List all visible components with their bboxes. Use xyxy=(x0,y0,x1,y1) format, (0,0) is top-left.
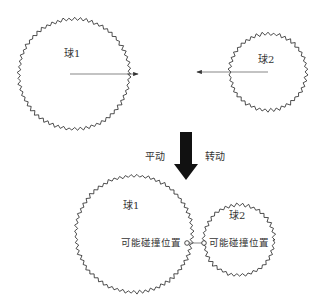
top-ball-1-label: 球1 xyxy=(64,47,80,59)
collision-diagram: 球1 球2 平动 转动 球1 可能碰撞位置 球2 可能碰撞位置 xyxy=(0,0,311,299)
translation-label: 平动 xyxy=(145,151,165,162)
transition-arrow-icon xyxy=(174,132,198,180)
bottom-ball-1: 球1 可能碰撞位置 xyxy=(75,174,194,294)
rotation-label: 转动 xyxy=(205,150,225,162)
contact-connector xyxy=(185,241,207,246)
bottom-ball-2-label: 球2 xyxy=(229,209,245,221)
top-ball-2-label: 球2 xyxy=(258,53,274,65)
bottom-ball-2: 球2 可能碰撞位置 xyxy=(202,203,275,276)
bottom-ball-1-label: 球1 xyxy=(123,199,139,211)
contact-point-2-icon xyxy=(202,241,207,246)
bottom-ball-2-contact-label: 可能碰撞位置 xyxy=(209,237,269,248)
bottom-ball-1-contact-label: 可能碰撞位置 xyxy=(121,237,181,248)
contact-point-1-icon xyxy=(185,241,190,246)
